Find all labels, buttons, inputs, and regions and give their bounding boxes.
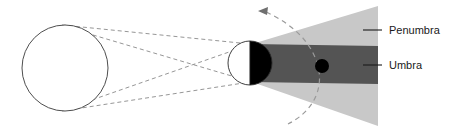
eclipse-shadow-diagram: Penumbra Umbra (0, 0, 451, 134)
penumbra-label: Penumbra (389, 24, 441, 36)
umbra-label: Umbra (389, 59, 423, 71)
orbit-direction-arrow-icon (258, 7, 268, 15)
moon-body (315, 59, 329, 73)
sun-body (22, 25, 108, 111)
diagram-canvas: Penumbra Umbra (0, 0, 451, 134)
